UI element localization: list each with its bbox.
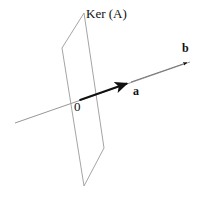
vector-b-label: b — [182, 42, 189, 54]
kernel-plane-diagram: Ker (A) 0 a b — [0, 0, 206, 197]
vector-b-arrow — [131, 63, 187, 82]
origin-label: 0 — [74, 100, 81, 113]
vector-a-label: a — [133, 85, 139, 97]
diagram-canvas — [0, 0, 206, 197]
kernel-plane-label: Ker (A) — [86, 7, 127, 20]
vector-a-arrow — [80, 84, 127, 101]
